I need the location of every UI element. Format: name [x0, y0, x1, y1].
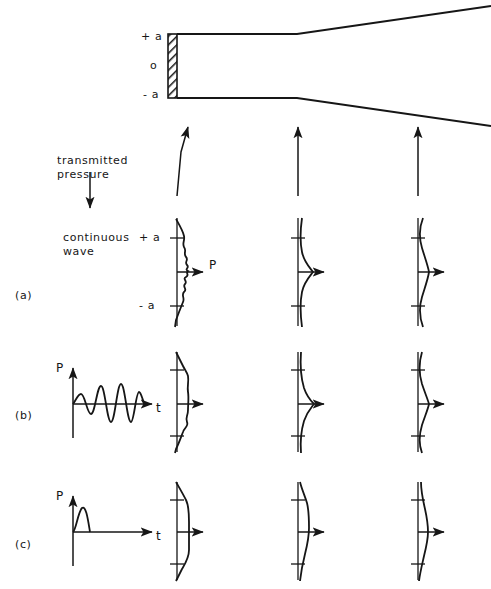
row-c-pressure-axis-label: P	[56, 489, 64, 504]
beam-profile-a-2	[291, 218, 324, 327]
transmitted-pressure-label-line1: transmitted	[57, 154, 128, 168]
row-label-c: (c)	[15, 538, 31, 552]
measurement-arrow-1	[177, 127, 188, 196]
row-b-time-axis-label: t	[156, 401, 161, 416]
transducer-bottom-label: - a	[143, 88, 159, 102]
row-label-b: (b)	[15, 409, 32, 423]
continuous-wave-label-line2: wave	[63, 245, 94, 259]
short-pulse-waveform	[73, 496, 152, 566]
transducer-element	[168, 34, 177, 98]
row-a-axis-bottom-tick-label: - a	[139, 299, 155, 313]
row-label-a: (a)	[15, 289, 32, 303]
beam-boundary	[177, 6, 491, 126]
figure-canvas	[0, 0, 491, 589]
beam-profile-c-2	[291, 482, 324, 581]
beam-profile-b-3	[411, 352, 444, 453]
transducer-center-label: o	[150, 59, 157, 73]
continuous-wave-label-line1: continuous	[63, 231, 130, 245]
beam-profile-c-3	[411, 482, 444, 581]
row-c-time-axis-label: t	[156, 529, 161, 544]
beam-profile-a-1	[170, 218, 203, 327]
beam-profile-figure: + a o - a transmitted pressure continuou…	[0, 0, 491, 589]
row-a-axis-top-tick-label: + a	[139, 231, 160, 245]
transducer-top-label: + a	[141, 30, 162, 44]
beam-profile-a-3	[411, 218, 444, 327]
row-b-pressure-axis-label: P	[56, 361, 64, 376]
beam-profile-b-1	[170, 352, 203, 453]
row-a-pressure-axis-label: P	[209, 258, 217, 273]
transmitted-pressure-label-line2: pressure	[57, 168, 109, 182]
beam-profile-c-1	[170, 482, 203, 581]
tone-burst-waveform	[73, 368, 152, 438]
beam-profile-b-2	[291, 352, 324, 453]
